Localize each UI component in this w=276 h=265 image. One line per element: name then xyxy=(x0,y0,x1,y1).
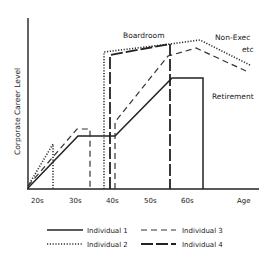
legend-label-individual-3: Individual 3 xyxy=(182,227,223,235)
non-exec-annotation-etc: etc xyxy=(242,45,254,54)
non-exec-annotation: Non-Exec xyxy=(215,33,250,42)
x-tick-30s: 30s xyxy=(69,197,82,205)
legend: Individual 1 Individual 3 Individual 2 I… xyxy=(47,227,223,249)
legend-label-individual-4: Individual 4 xyxy=(182,241,223,249)
individual-3-line-early xyxy=(28,129,90,189)
x-tick-60s: 60s xyxy=(181,197,194,205)
x-tick-20s: 20s xyxy=(31,197,44,205)
individual-3-line-late xyxy=(115,48,246,189)
career-diagram: Corporate Career Level 20s 30s 40s 50s 6… xyxy=(0,0,276,265)
boardroom-annotation: Boardroom xyxy=(123,31,164,40)
legend-label-individual-2: Individual 2 xyxy=(87,241,128,249)
x-axis-label: Age xyxy=(237,197,251,205)
retirement-annotation: Retirement xyxy=(212,92,254,101)
legend-label-individual-1: Individual 1 xyxy=(87,227,128,235)
y-axis-label: Corporate Career Level xyxy=(13,68,22,155)
x-tick-40s: 40s xyxy=(106,197,119,205)
x-tick-50s: 50s xyxy=(144,197,157,205)
